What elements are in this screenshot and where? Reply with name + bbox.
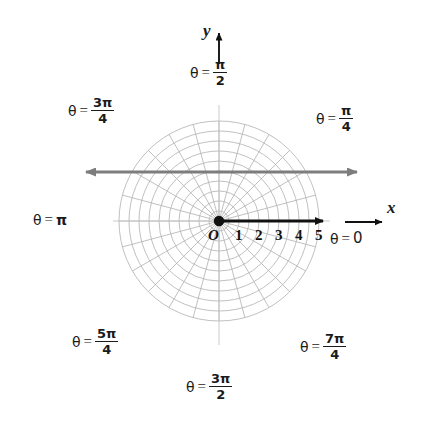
theta-label-3pi-over-4: θ = 3π 4 xyxy=(68,96,114,125)
theta-symbol: θ xyxy=(33,213,42,227)
theta-label-pi-over-2: θ = π 2 xyxy=(190,58,227,87)
theta-label-pi-over-4: θ = π 4 xyxy=(316,104,353,133)
equals-sign: = xyxy=(80,103,88,118)
zero-value: 0 xyxy=(353,231,363,246)
fraction-numerator: π xyxy=(213,58,227,73)
theta-label-zero: θ = 0 xyxy=(330,231,363,246)
pole-point xyxy=(214,216,224,226)
fraction-denominator: 4 xyxy=(102,342,111,357)
fraction-pi-over-2: π 2 xyxy=(213,58,227,87)
fraction-numerator: 7π xyxy=(323,332,346,347)
theta-symbol: θ xyxy=(72,335,81,349)
theta-symbol: θ xyxy=(330,232,339,246)
polar-grid-figure: y x O 1 2 3 4 5 θ = π 2 θ = π 4 xyxy=(0,0,433,421)
radial-tick-3: 3 xyxy=(275,228,283,243)
fraction-numerator: 3π xyxy=(209,372,232,387)
fraction-denominator: 4 xyxy=(330,347,339,362)
theta-label-pi: θ = π xyxy=(33,212,67,227)
fraction-denominator: 4 xyxy=(342,119,351,134)
radial-tick-5: 5 xyxy=(315,228,323,243)
fraction-5pi-over-4: 5π 4 xyxy=(95,327,118,356)
theta-symbol: θ xyxy=(190,66,199,80)
theta-label-7pi-over-4: θ = 7π 4 xyxy=(300,332,346,361)
equals-sign: = xyxy=(202,65,210,80)
fraction-pi-over-4: π 4 xyxy=(339,104,353,133)
equals-sign: = xyxy=(198,379,206,394)
theta-symbol: θ xyxy=(316,112,325,126)
equals-sign: = xyxy=(312,339,320,354)
theta-label-5pi-over-4: θ = 5π 4 xyxy=(72,327,118,356)
fraction-numerator: π xyxy=(339,104,353,119)
y-axis-label: y xyxy=(203,22,211,39)
fraction-7pi-over-4: 7π 4 xyxy=(323,332,346,361)
fraction-numerator: 5π xyxy=(95,327,118,342)
fraction-denominator: 4 xyxy=(98,111,107,126)
equals-sign: = xyxy=(342,231,350,246)
equals-sign: = xyxy=(84,334,92,349)
pi-symbol: π xyxy=(56,213,67,227)
theta-symbol: θ xyxy=(68,104,77,118)
fraction-denominator: 2 xyxy=(216,73,225,88)
fraction-numerator: 3π xyxy=(91,96,114,111)
equals-sign: = xyxy=(328,111,336,126)
radial-tick-1: 1 xyxy=(235,228,243,243)
fraction-denominator: 2 xyxy=(216,387,225,402)
theta-symbol: θ xyxy=(300,340,309,354)
radial-tick-2: 2 xyxy=(255,228,263,243)
fraction-3pi-over-2: 3π 2 xyxy=(209,372,232,401)
radial-tick-4: 4 xyxy=(295,228,303,243)
equals-sign: = xyxy=(45,212,53,227)
x-axis-label: x xyxy=(387,199,396,216)
fraction-3pi-over-4: 3π 4 xyxy=(91,96,114,125)
theta-label-3pi-over-2: θ = 3π 2 xyxy=(186,372,232,401)
origin-label: O xyxy=(208,228,219,243)
theta-symbol: θ xyxy=(186,380,195,394)
